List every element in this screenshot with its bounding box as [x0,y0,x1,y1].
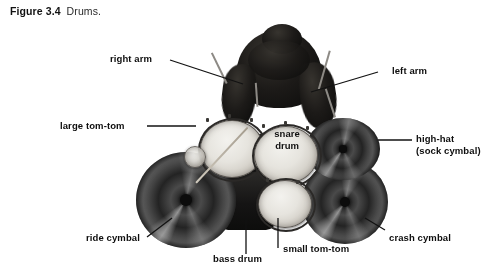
label-bass-drum: bass drum [213,253,262,264]
snare-drum-lug-1 [262,124,265,128]
large-tom-tom-lug-1 [206,118,209,122]
large-tom-tom-lug-2 [228,114,231,118]
label-left-arm: left arm [392,65,427,76]
cymbal-stand-rod-left [211,52,227,83]
small-tom-tom-rim [256,178,316,232]
label-ride-cymbal: ride cymbal [86,232,140,243]
figure-number: Figure 3.4 [10,5,61,17]
small-tom-tom-lug-2 [296,180,299,184]
label-snare-drum-line2: drum [266,140,308,152]
label-small-tom-tom: small tom-tom [283,243,349,254]
snare-drum-lug-2 [284,121,287,125]
drummer-shoulder-highlight [248,40,310,80]
label-snare-drum: snare drum [266,128,308,151]
label-snare-drum-line1: snare [266,128,308,140]
label-crash-cymbal: crash cymbal [389,232,451,243]
auxiliary-drum-left [184,146,206,168]
figure-page: Figure 3.4Drums. [0,0,485,274]
small-tom-tom-lug-1 [266,178,269,182]
figure-caption-text: Drums. [67,5,101,17]
label-high-hat: high-hat (sock cymbal) [416,133,481,156]
label-right-arm: right arm [110,53,152,64]
label-large-tom-tom: large tom-tom [60,120,125,131]
large-tom-tom-lug-3 [250,118,253,122]
label-high-hat-line1: high-hat [416,133,481,145]
figure-caption: Figure 3.4Drums. [10,5,101,17]
label-high-hat-line2: (sock cymbal) [416,145,481,157]
